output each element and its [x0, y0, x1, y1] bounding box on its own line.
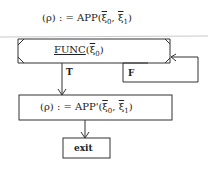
init-op: : =: [59, 12, 74, 23]
action-close: ): [129, 101, 133, 112]
decision-close: ): [100, 44, 104, 55]
init-func: APP(: [77, 12, 102, 23]
decision-func: FUNC: [54, 44, 86, 55]
init-lhs: (ρ): [42, 12, 56, 23]
init-close: ): [128, 12, 132, 23]
true-label: T: [66, 67, 73, 77]
exit-label: exit: [74, 142, 93, 154]
false-label: F: [128, 68, 134, 78]
action-lhs: (ρ): [40, 101, 54, 112]
init-statement: (ρ) : = APP(ξ0, ξ1): [42, 12, 132, 28]
decision-text: FUNC(ξ0): [54, 44, 104, 60]
action-statement: (ρ) : = APP'(ξ0, ξ1): [40, 101, 133, 117]
action-func: APP'(: [75, 101, 102, 112]
action-op: : =: [57, 101, 72, 112]
